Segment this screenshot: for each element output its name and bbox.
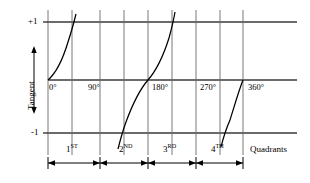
arrowhead-q3-left: [148, 160, 155, 166]
tangent-graph-figure: +1 -1 0° 90° 180° 270° 360° Tangent 1ST …: [0, 0, 310, 183]
x-label-360deg: 360°: [248, 83, 264, 92]
quadrant-1-ordinal: ST: [71, 142, 78, 149]
quadrant-4-ordinal: TH: [216, 142, 224, 149]
arrowhead-q4-right: [236, 160, 243, 166]
arrowhead-q1-right: [93, 160, 100, 166]
horizontal-gridlines: [48, 22, 297, 133]
arrowhead-q4-left: [196, 160, 203, 166]
x-label-0deg: 0°: [49, 83, 57, 92]
quadrant-label-4: 4TH: [211, 145, 224, 154]
x-label-90deg: 90°: [88, 83, 100, 92]
quadrant-2-ordinal: ND: [124, 142, 133, 149]
x-label-270deg: 270°: [200, 83, 216, 92]
x-label-180deg: 180°: [152, 83, 168, 92]
arrowhead-q2-left: [100, 160, 107, 166]
y-label-minus-one: -1: [31, 128, 39, 137]
tangent-arrowhead-up: [31, 46, 36, 53]
arrowhead-q1-left: [48, 160, 55, 166]
quadrant-label-3: 3RD: [163, 145, 176, 154]
arrowhead-q2-right: [141, 160, 148, 166]
y-axis-title: Tangent: [26, 81, 36, 110]
quadrant-label-2: 2ND: [119, 145, 132, 154]
quadrant-label-1: 1ST: [66, 145, 78, 154]
quadrant-3-ordinal: RD: [168, 142, 177, 149]
quadrants-axis-title: Quadrants: [250, 145, 287, 154]
arrowhead-q3-right: [189, 160, 196, 166]
axis-ticks: [43, 22, 48, 133]
y-label-plus-one: +1: [28, 17, 38, 26]
tangent-branch-3: [221, 80, 243, 147]
